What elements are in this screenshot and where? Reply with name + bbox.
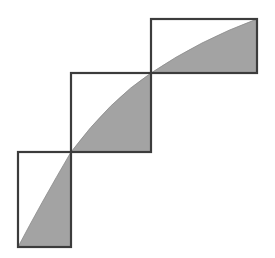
shaded-regions: [18, 19, 257, 247]
shaded-region-rect-top: [151, 19, 257, 73]
staircase-diagram: [0, 0, 275, 258]
shaded-region-rect-middle: [71, 73, 151, 152]
